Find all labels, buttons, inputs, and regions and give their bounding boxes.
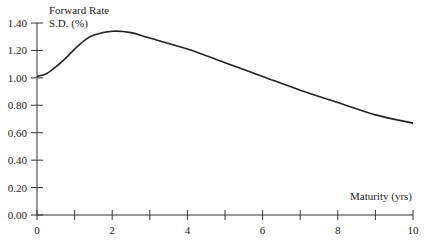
tick-labels: 02468100.000.200.400.600.801.001.201.40 [8,17,419,236]
axes [37,23,413,215]
x-axis-title: Maturity (yrs) [350,190,412,203]
y-tick-label: 1.40 [8,17,28,29]
y-tick-label: 0.20 [8,182,28,194]
y-tick-label: 0.40 [8,154,28,166]
y-tick-label: 0.80 [8,99,28,111]
x-tick-label: 4 [185,224,191,236]
y-tick-label: 1.00 [8,72,28,84]
y-axis-title-line2: S.D. (%) [49,17,88,30]
y-tick-label: 0.00 [8,209,28,221]
line-chart: 02468100.000.200.400.600.801.001.201.40 … [0,0,425,242]
x-tick-label: 8 [335,224,341,236]
y-tick-label: 1.20 [8,44,28,56]
x-tick-label: 0 [34,224,40,236]
x-tick-label: 6 [260,224,266,236]
data-line [37,31,413,123]
x-tick-label: 2 [109,224,115,236]
y-axis-title-line1: Forward Rate [49,4,109,16]
y-tick-label: 0.60 [8,127,28,139]
x-tick-label: 10 [408,224,420,236]
